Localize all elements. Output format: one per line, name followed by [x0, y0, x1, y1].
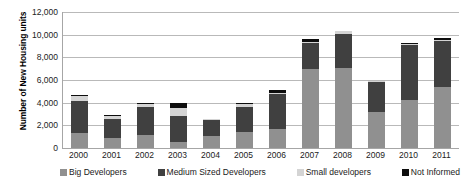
- legend-label: Medium Sized Developers: [167, 167, 266, 177]
- bar-slot: [294, 12, 327, 148]
- bar-stack[interactable]: [302, 39, 319, 148]
- legend-item[interactable]: Big Developers: [60, 167, 127, 177]
- y-axis-tick-label: 2,000: [20, 120, 58, 130]
- bar-segment[interactable]: [302, 43, 319, 69]
- bar-segment[interactable]: [137, 107, 154, 135]
- bar-slot: [195, 12, 228, 148]
- stacked-bar-chart: Number of New Housing units 12,00010,000…: [0, 0, 465, 185]
- bar-slot: [162, 12, 195, 148]
- bar-segment[interactable]: [104, 119, 121, 138]
- bar-slot: [261, 12, 294, 148]
- bar-slot: [393, 12, 426, 148]
- y-axis-tick-label: 10,000: [20, 30, 58, 40]
- plot-area: [62, 12, 459, 149]
- legend-swatch-icon: [402, 169, 409, 176]
- bar-slot: [426, 12, 459, 148]
- bar-segment[interactable]: [170, 116, 187, 143]
- x-axis-tick-labels: 2000200120022003200420052006200720082009…: [62, 150, 458, 160]
- x-axis-tick-label: 2000: [62, 150, 95, 160]
- bar-stack[interactable]: [368, 81, 385, 148]
- bar-slot: [129, 12, 162, 148]
- bar-slot: [327, 12, 360, 148]
- bar-stack[interactable]: [401, 43, 418, 148]
- x-axis-tick-label: 2007: [293, 150, 326, 160]
- y-axis-tick-label: 12,000: [20, 7, 58, 17]
- x-axis-tick-label: 2005: [227, 150, 260, 160]
- bar-stack[interactable]: [335, 31, 352, 148]
- x-axis-tick-label: 2009: [359, 150, 392, 160]
- bar-stack[interactable]: [104, 115, 121, 148]
- legend-swatch-icon: [60, 169, 67, 176]
- x-axis-tick-label: 2006: [260, 150, 293, 160]
- x-axis-tick-label: 2004: [194, 150, 227, 160]
- bar-segment[interactable]: [368, 82, 385, 113]
- legend-swatch-icon: [297, 169, 304, 176]
- bar-segment[interactable]: [401, 100, 418, 148]
- bar-segment[interactable]: [269, 94, 286, 130]
- x-axis-tick-label: 2002: [128, 150, 161, 160]
- x-axis-tick-label: 2008: [326, 150, 359, 160]
- y-axis-tick-label: 8,000: [20, 52, 58, 62]
- bar-stack[interactable]: [170, 103, 187, 148]
- bar-stack[interactable]: [269, 90, 286, 148]
- bar-segment[interactable]: [137, 135, 154, 148]
- bar-segment[interactable]: [434, 87, 451, 148]
- legend-item[interactable]: Small developers: [297, 167, 371, 177]
- y-axis-tick-labels: 12,00010,0008,0006,0004,0002,0000: [20, 0, 58, 160]
- bar-segment[interactable]: [401, 45, 418, 99]
- bar-segment[interactable]: [368, 112, 385, 148]
- bar-segment[interactable]: [269, 129, 286, 148]
- bar-segment[interactable]: [170, 142, 187, 148]
- chart-legend: Big DevelopersMedium Sized DevelopersSma…: [60, 167, 460, 177]
- bar-segment[interactable]: [302, 69, 319, 148]
- y-axis-tick-label: 6,000: [20, 75, 58, 85]
- bar-slot: [360, 12, 393, 148]
- bar-slot: [96, 12, 129, 148]
- legend-item[interactable]: Medium Sized Developers: [158, 167, 266, 177]
- bar-segment[interactable]: [335, 34, 352, 68]
- y-axis-tick-label: 0: [20, 143, 58, 153]
- x-axis-tick-label: 2003: [161, 150, 194, 160]
- bar-segment[interactable]: [203, 136, 220, 148]
- bar-slot: [228, 12, 261, 148]
- bar-segment[interactable]: [236, 132, 253, 148]
- bar-slot: [63, 12, 96, 148]
- legend-label: Big Developers: [69, 167, 127, 177]
- legend-label: Not Informed: [411, 167, 460, 177]
- bar-segment[interactable]: [236, 107, 253, 132]
- x-axis-tick-label: 2010: [392, 150, 425, 160]
- legend-item[interactable]: Not Informed: [402, 167, 460, 177]
- bar-stack[interactable]: [203, 119, 220, 148]
- bar-stack[interactable]: [236, 103, 253, 148]
- bar-segment[interactable]: [335, 68, 352, 148]
- bar-segment[interactable]: [71, 133, 88, 148]
- bar-stack[interactable]: [434, 38, 451, 148]
- x-axis-tick-label: 2011: [425, 150, 458, 160]
- bar-segment[interactable]: [434, 41, 451, 87]
- x-axis-tick-label: 2001: [95, 150, 128, 160]
- y-axis-tick-label: 4,000: [20, 98, 58, 108]
- bars-layer: [63, 12, 459, 148]
- legend-label: Small developers: [306, 167, 371, 177]
- bar-stack[interactable]: [71, 95, 88, 148]
- bar-segment[interactable]: [170, 108, 187, 116]
- bar-segment[interactable]: [203, 120, 220, 135]
- legend-swatch-icon: [158, 169, 165, 176]
- bar-stack[interactable]: [137, 103, 154, 148]
- bar-segment[interactable]: [71, 101, 88, 133]
- bar-segment[interactable]: [104, 138, 121, 148]
